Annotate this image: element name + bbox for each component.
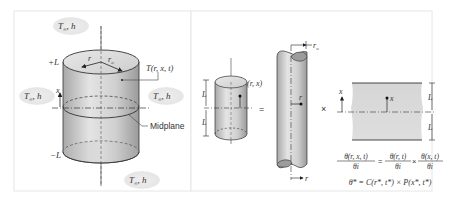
svg-text:T∞, h: T∞, h <box>129 175 147 186</box>
svg-text:T∞, h: T∞, h <box>58 21 76 32</box>
dimensionless-equation: θ* = C(r*, t*) × P(x*, t*) <box>349 178 432 187</box>
ambient-condition-right: T∞, h <box>148 87 184 105</box>
eq1-times: × <box>412 157 416 166</box>
point-r <box>300 103 303 106</box>
eq1-rhs-numerator: θ(x, t) <box>421 152 439 161</box>
L-lower-small: L <box>201 118 207 127</box>
temperature-label: T(r, x, t) <box>146 63 174 73</box>
wall-point-x-label: x <box>389 94 394 103</box>
diagram-canvas: T∞, h T∞, h T∞, h T∞, h +L −L x r ro T(r… <box>0 0 461 208</box>
wall-L-upper: L <box>427 93 433 102</box>
eq1-mid-denominator: θi <box>395 162 401 171</box>
point-x <box>386 97 389 100</box>
point-r-x-label: (r, x) <box>247 79 262 88</box>
eq1-lhs-denominator: θi <box>353 162 359 171</box>
eq1-equals: = <box>378 157 383 166</box>
svg-text:T∞, h: T∞, h <box>24 91 42 102</box>
L-upper-small: L <box>201 90 207 99</box>
minus-L-label: −L <box>50 150 61 160</box>
point-r-x <box>239 95 242 98</box>
wall-L-lower: L <box>427 123 433 132</box>
times-sign: × <box>321 104 326 114</box>
ambient-condition-left: T∞, h <box>19 87 55 105</box>
eq1-lhs-numerator: θ(r, x, t) <box>344 152 368 161</box>
eq1-rhs-denominator: θi <box>427 162 433 171</box>
wall-x-axis-label: x <box>338 87 343 96</box>
midplane-label: Midplane <box>150 121 185 131</box>
plus-L-label: +L <box>48 57 59 67</box>
equals-sign: = <box>259 104 264 114</box>
eq1-mid-numerator: θ(r, t) <box>390 152 407 161</box>
infinite-cylinder <box>277 41 312 180</box>
x-label-left: x <box>55 86 60 95</box>
svg-text:T∞, h: T∞, h <box>153 91 171 102</box>
ambient-condition-top: T∞, h <box>53 17 89 35</box>
ambient-condition-bottom: T∞, h <box>124 171 160 189</box>
